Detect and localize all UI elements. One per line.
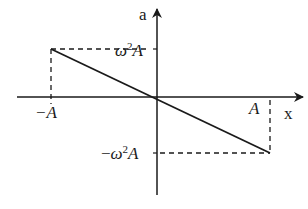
sho-acceleration-displacement-diagram: a x ω2A −ω2A −A A [0,0,308,209]
y-tick-top-label: ω2A [115,40,144,60]
y-axis-label: a [139,5,147,24]
acceleration-line [51,49,270,153]
y-tick-bottom-label: −ω2A [101,143,139,163]
x-axis-label: x [284,104,293,123]
x-tick-left-label: −A [35,103,57,122]
x-tick-right-label: A [248,99,260,118]
